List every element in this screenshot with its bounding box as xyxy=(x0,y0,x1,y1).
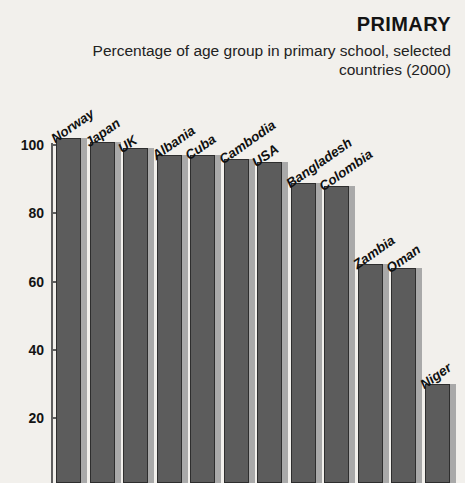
bar-bangladesh[interactable] xyxy=(291,183,316,483)
bar-body xyxy=(224,159,249,483)
bar-colombia[interactable] xyxy=(324,186,349,483)
bar-body xyxy=(425,384,450,483)
bar-body xyxy=(56,138,81,483)
chart-plot-area: 10080604020 NorwayJapanUKAlbaniaCubaCamb… xyxy=(0,0,465,483)
bar-cambodia[interactable] xyxy=(224,159,249,483)
bar-oman[interactable] xyxy=(391,268,416,483)
bar-cuba[interactable] xyxy=(190,155,215,483)
bar-body xyxy=(358,264,383,483)
bar-body xyxy=(257,162,282,483)
bar-body xyxy=(90,142,115,483)
bar-body xyxy=(123,148,148,483)
bar-body xyxy=(391,268,416,483)
bar-body xyxy=(324,186,349,483)
bar-series: NorwayJapanUKAlbaniaCubaCambodiaUSABangl… xyxy=(0,0,465,483)
bar-japan[interactable] xyxy=(90,142,115,483)
bar-niger[interactable] xyxy=(425,384,450,483)
bar-uk[interactable] xyxy=(123,148,148,483)
bar-zambia[interactable] xyxy=(358,264,383,483)
bar-albania[interactable] xyxy=(157,155,182,483)
bar-body xyxy=(291,183,316,483)
bar-body xyxy=(157,155,182,483)
bar-usa[interactable] xyxy=(257,162,282,483)
bar-norway[interactable] xyxy=(56,138,81,483)
bar-body xyxy=(190,155,215,483)
